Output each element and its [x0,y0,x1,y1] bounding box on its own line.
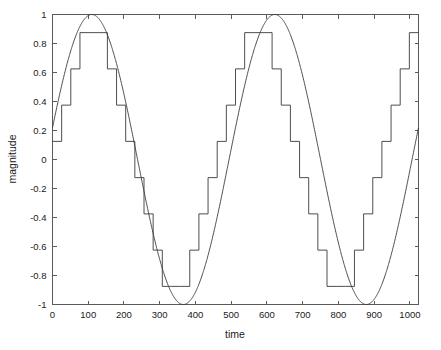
y-tick-label: -0.6 [30,241,46,252]
figure-canvas: 01002003004005006007008009001000 10.80.6… [0,0,441,350]
y-tick-label: 0.4 [33,96,46,107]
x-tick-label: 600 [259,309,275,320]
x-tick-label: 500 [223,309,239,320]
y-tick-label: -0.8 [30,270,46,281]
y-tick-label: 0 [41,154,46,165]
y-axis-tick-labels: 10.80.60.40.20-0.2-0.4-0.6-0.8-1 [30,9,46,310]
x-tick-label: 1000 [399,309,420,320]
y-tick-label: 1 [41,9,46,20]
x-tick-label: 300 [152,309,168,320]
x-tick-label: 800 [331,309,347,320]
y-tick-label: 0.8 [33,38,46,49]
x-axis-title: time [225,328,245,340]
quantized-staircase-series [53,33,419,287]
x-axis-tick-labels: 01002003004005006007008009001000 [50,309,421,320]
y-tick-label: -1 [38,299,46,310]
y-axis-title: magnitude [6,134,18,183]
x-tick-label: 400 [188,309,204,320]
y-tick-label: -0.2 [30,183,46,194]
sine-quantization-chart: 01002003004005006007008009001000 10.80.6… [0,0,441,350]
y-tick-label: 0.6 [33,67,46,78]
y-tick-label: -0.4 [30,212,46,223]
x-tick-label: 200 [116,309,132,320]
x-tick-label: 100 [80,309,96,320]
x-tick-label: 900 [366,309,382,320]
x-axis-ticks [53,15,410,305]
x-tick-label: 0 [50,309,55,320]
y-tick-label: 0.2 [33,125,46,136]
x-tick-label: 700 [295,309,311,320]
